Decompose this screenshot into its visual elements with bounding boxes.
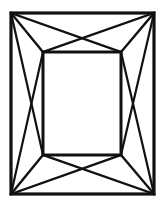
table-facet-fill bbox=[45, 54, 120, 154]
gem-diagram bbox=[0, 0, 165, 210]
figure-container bbox=[0, 0, 165, 210]
